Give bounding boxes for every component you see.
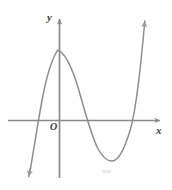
function-graph-figure: y x O bbox=[0, 0, 172, 190]
x-axis-label: x bbox=[156, 125, 162, 136]
cubic-curve-left-arrow bbox=[29, 168, 31, 177]
graph-canvas bbox=[0, 0, 172, 190]
y-axis-label: y bbox=[47, 12, 52, 23]
origin-label: O bbox=[50, 122, 57, 132]
scan-artifact bbox=[102, 170, 111, 173]
cubic-curve bbox=[30, 21, 145, 174]
